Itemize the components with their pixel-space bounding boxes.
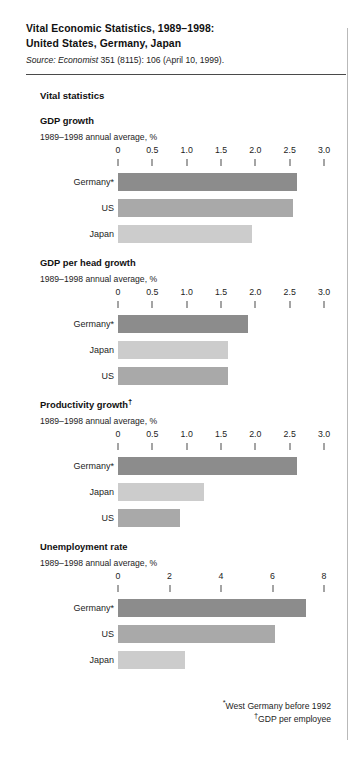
chart-title: Productivity growth†	[40, 399, 362, 410]
bar-category-label: Germany*	[26, 461, 114, 471]
x-tick-mark	[324, 443, 325, 450]
bar-category-label: Japan	[26, 487, 114, 497]
bar	[118, 173, 297, 191]
x-tick-label: 3.0	[318, 145, 330, 155]
x-tick-mark	[152, 159, 153, 166]
section-title: Vital statistics	[40, 90, 362, 101]
plot-area: 02468Germany*USJapan	[26, 571, 362, 667]
bar-category-label: Japan	[26, 655, 114, 665]
x-axis-labels: 00.51.01.52.02.53.0	[26, 429, 362, 442]
x-tick-label: 2.5	[284, 429, 296, 439]
x-tick-mark	[324, 585, 325, 592]
bar-row: US	[26, 623, 362, 645]
bar-category-label: US	[26, 203, 114, 213]
x-tick-label: 3.0	[318, 287, 330, 297]
x-axis-ticks	[26, 443, 362, 451]
bar-row: Japan	[26, 481, 362, 503]
x-axis-labels: 00.51.01.52.02.53.0	[26, 145, 362, 158]
x-tick-mark	[118, 585, 119, 592]
x-tick-label: 2.5	[284, 287, 296, 297]
document-header: Vital Economic Statistics, 1989–1998: Un…	[0, 0, 362, 67]
chart-title-text: GDP per head growth	[40, 257, 136, 268]
bar-row: Japan	[26, 223, 362, 245]
x-tick-mark	[221, 585, 222, 592]
x-tick-mark	[289, 443, 290, 450]
chart-4: Unemployment rate1989–1998 annual averag…	[0, 541, 362, 667]
bar-category-label: Germany*	[26, 319, 114, 329]
bars-group: Germany*USJapan	[26, 171, 362, 249]
footnote-2-text: GDP per employee	[258, 714, 331, 724]
bar	[118, 651, 185, 669]
x-tick-label: 1.0	[181, 429, 193, 439]
x-tick-mark	[186, 301, 187, 308]
x-tick-mark	[221, 301, 222, 308]
x-tick-mark	[169, 585, 170, 592]
chart-title-text: Productivity growth	[40, 399, 128, 410]
x-tick-label: 1.5	[215, 145, 227, 155]
plot-area: 00.51.01.52.02.53.0Germany*USJapan	[26, 145, 362, 241]
x-axis-ticks	[26, 159, 362, 167]
chart-subtitle: 1989–1998 annual average, %	[40, 132, 362, 142]
x-tick-label: 2.0	[249, 145, 261, 155]
x-tick-label: 8	[322, 571, 327, 581]
bar	[118, 457, 297, 475]
x-tick-mark	[289, 301, 290, 308]
x-tick-label: 0	[116, 571, 121, 581]
chart-title-text: Unemployment rate	[40, 541, 128, 552]
chart-2: GDP per head growth1989–1998 annual aver…	[0, 257, 362, 383]
x-tick-label: 1.0	[181, 145, 193, 155]
plot-area: 00.51.01.52.02.53.0Germany*JapanUS	[26, 429, 362, 525]
x-tick-mark	[118, 301, 119, 308]
bar-row: Japan	[26, 649, 362, 671]
bar-row: Germany*	[26, 313, 362, 335]
bar	[118, 483, 204, 501]
charts-container: GDP growth1989–1998 annual average, %00.…	[0, 115, 362, 667]
x-tick-mark	[152, 301, 153, 308]
bar-row: Germany*	[26, 171, 362, 193]
x-tick-mark	[324, 301, 325, 308]
bar-category-label: US	[26, 513, 114, 523]
x-tick-label: 0	[116, 145, 121, 155]
x-tick-label: 0.5	[146, 287, 158, 297]
bar	[118, 341, 228, 359]
bar	[118, 599, 306, 617]
x-tick-mark	[221, 443, 222, 450]
x-tick-label: 2	[167, 571, 172, 581]
footnote-2: †GDP per employee	[223, 713, 331, 726]
x-tick-mark	[221, 159, 222, 166]
x-tick-mark	[255, 301, 256, 308]
source-prefix: Source:	[26, 55, 56, 65]
x-tick-mark	[272, 585, 273, 592]
x-tick-mark	[255, 443, 256, 450]
header-divider	[26, 74, 346, 75]
bar-row: Germany*	[26, 597, 362, 619]
chart-title-dagger: †	[128, 397, 132, 406]
x-tick-label: 2.0	[249, 429, 261, 439]
bar-row: US	[26, 507, 362, 529]
x-tick-label: 4	[219, 571, 224, 581]
page-title-line-1: Vital Economic Statistics, 1989–1998:	[26, 22, 334, 37]
x-tick-label: 0	[116, 287, 121, 297]
bar	[118, 625, 275, 643]
bar-row: US	[26, 197, 362, 219]
chart-subtitle: 1989–1998 annual average, %	[40, 274, 362, 284]
bar-category-label: Germany*	[26, 177, 114, 187]
x-tick-mark	[289, 159, 290, 166]
x-axis-ticks	[26, 301, 362, 309]
x-axis-ticks	[26, 585, 362, 593]
footnotes: *West Germany before 1992 †GDP per emplo…	[223, 700, 331, 725]
bar	[118, 315, 248, 333]
x-tick-label: 0	[116, 429, 121, 439]
bars-group: Germany*JapanUS	[26, 455, 362, 533]
bar-category-label: Japan	[26, 229, 114, 239]
bar-category-label: US	[26, 629, 114, 639]
bar-category-label: Japan	[26, 345, 114, 355]
footnote-1-text: West Germany before 1992	[226, 701, 331, 711]
x-axis-labels: 02468	[26, 571, 362, 584]
bar	[118, 225, 252, 243]
bar-row: Japan	[26, 339, 362, 361]
bar	[118, 509, 180, 527]
bar	[118, 199, 293, 217]
x-tick-mark	[255, 159, 256, 166]
chart-title: GDP growth	[40, 115, 362, 126]
